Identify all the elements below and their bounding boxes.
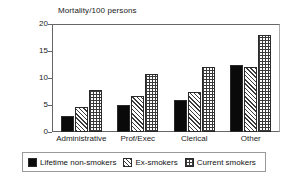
legend-label: Ex-smokers: [135, 158, 177, 167]
bar-prof-exec-ex-smokers: [131, 96, 144, 132]
bar-group-other: [223, 24, 280, 132]
bar-administrative-lifetime-non-smokers: [61, 116, 74, 132]
bar-group-administrative: [53, 24, 110, 132]
y-tick-mark-15: [48, 51, 52, 52]
y-tick-mark-20: [48, 24, 52, 25]
x-label-clerical: Clerical: [166, 134, 223, 144]
x-label-prof-exec: Prof/Exec: [110, 134, 167, 144]
x-axis-tick-labels: AdministrativeProf/ExecClericalOther: [53, 134, 279, 146]
bar-prof-exec-current-smokers: [145, 74, 158, 132]
y-axis-title: Mortality/100 persons: [58, 6, 137, 15]
bar-other-current-smokers: [258, 35, 271, 132]
solid-black-swatch-icon: [28, 158, 37, 167]
bar-group-clerical: [166, 24, 223, 132]
bar-series-area: [53, 24, 279, 132]
x-label-administrative: Administrative: [53, 134, 110, 144]
y-tick-0: 0: [18, 128, 48, 136]
legend-label: Current smokers: [197, 158, 256, 167]
bar-other-lifetime-non-smokers: [230, 65, 243, 133]
bar-prof-exec-lifetime-non-smokers: [117, 105, 130, 132]
y-tick-mark-0: [48, 132, 52, 133]
bar-clerical-lifetime-non-smokers: [174, 100, 187, 132]
legend-item-ex-smokers[interactable]: Ex-smokers: [123, 158, 177, 167]
chart-legend: Lifetime non-smokersEx-smokersCurrent sm…: [22, 152, 266, 172]
chart-container: Mortality/100 persons 05101520 Administr…: [0, 0, 289, 182]
y-tick-15: 15: [18, 47, 48, 55]
y-tick-20: 20: [18, 20, 48, 28]
bar-clerical-ex-smokers: [188, 92, 201, 133]
bar-clerical-current-smokers: [202, 67, 215, 132]
legend-label: Lifetime non-smokers: [40, 158, 116, 167]
legend-item-lifetime-non-smokers[interactable]: Lifetime non-smokers: [28, 158, 116, 167]
cross-grid-hatch-swatch-icon: [185, 158, 194, 167]
y-tick-mark-5: [48, 105, 52, 106]
diagonal-hatch-swatch-icon: [123, 158, 132, 167]
bar-administrative-current-smokers: [89, 90, 102, 132]
bar-group-prof-exec: [110, 24, 167, 132]
y-tick-mark-10: [48, 78, 52, 79]
bar-administrative-ex-smokers: [75, 107, 88, 132]
x-label-other: Other: [223, 134, 280, 144]
bar-other-ex-smokers: [244, 67, 257, 132]
y-tick-5: 5: [18, 101, 48, 109]
y-tick-10: 10: [18, 74, 48, 82]
legend-item-current-smokers[interactable]: Current smokers: [185, 158, 256, 167]
